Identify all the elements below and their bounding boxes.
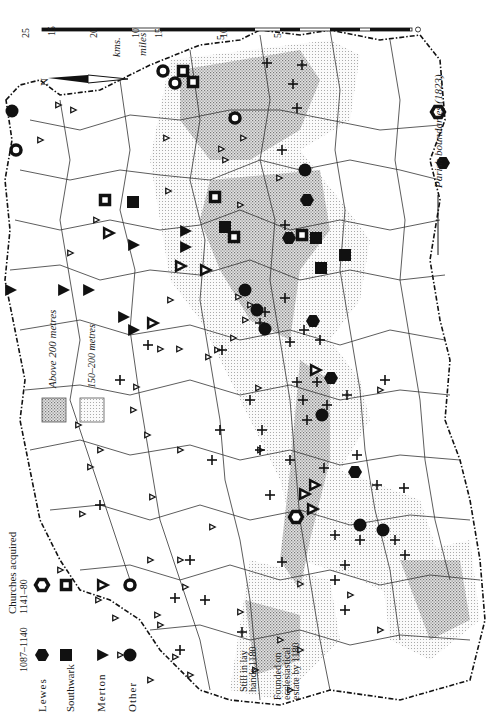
ecclesiastical-estate-triangle-icon (210, 524, 215, 529)
ecclesiastical-estate-triangle-icon (88, 464, 93, 469)
scale-mile-5: 5 (215, 35, 226, 40)
southwark-1141-80-icon (179, 67, 188, 76)
other-1141-80-icon (125, 580, 135, 590)
ecclesiastical-estate-triangle-icon (177, 346, 182, 351)
ecclesiastical-estate-triangle-icon (38, 137, 43, 142)
legend-title: Churches acquired (6, 532, 18, 614)
scale-km-5: 5 (272, 33, 283, 38)
ecclesiastical-estate-triangle-icon (68, 250, 73, 255)
legend-row-other: Other (126, 682, 138, 712)
merton-1141-80-icon (104, 228, 113, 237)
ecclesiastical-estate-triangle-icon (183, 584, 188, 589)
legend-row-southwark: Southwark (64, 664, 76, 712)
scale-unit-kms: kms. (110, 37, 122, 57)
other-1087-1140-icon (239, 284, 252, 297)
ecclesiastical-estate-triangle-icon (58, 567, 63, 572)
other-1087-1140-icon (6, 105, 19, 118)
southwark-1087-1140-icon (127, 196, 139, 208)
legend-swatch-above-200 (42, 398, 66, 422)
ecclesiastical-estate-triangle-icon (206, 354, 211, 359)
legend-relief-above-200: Above 200 metres (46, 310, 58, 388)
ecclesiastical-estate-triangle-icon (148, 557, 153, 562)
merton-1087-1140-icon (58, 284, 70, 296)
southwark-1141-80-icon (62, 581, 71, 590)
other-1087-1140-icon (124, 649, 137, 662)
other-1087-1140-icon (299, 164, 312, 177)
other-1141-80-icon (158, 66, 168, 76)
scale-km-20: 20 (88, 28, 99, 38)
legend-eccl-line3: estate by 1180 (290, 643, 301, 700)
other-1087-1140-icon (377, 524, 390, 537)
ecclesiastical-estate-triangle-icon (80, 511, 85, 516)
lewes-1141-80-icon (290, 511, 303, 522)
merton-1087-1140-icon (83, 284, 95, 296)
scale-km-25: 25 (20, 28, 31, 38)
north-label: N (38, 78, 50, 86)
southwark-1087-1140-icon (339, 249, 351, 261)
legend-period-a: 1087–1140 (18, 627, 29, 672)
other-1087-1140-icon (354, 519, 367, 532)
ecclesiastical-estate-triangle-icon (158, 622, 163, 627)
ecclesiastical-estate-triangle-icon (155, 612, 160, 617)
ecclesiastical-estate-triangle-icon (178, 557, 183, 562)
legend-period-b: 1141–80 (18, 579, 29, 614)
merton-1087-1140-icon (128, 239, 140, 251)
ecclesiastical-estate-triangle-icon (96, 597, 101, 602)
ecclesiastical-estate-triangle-icon (188, 672, 193, 677)
scale-mile-15: 15 (46, 26, 57, 36)
merton-1087-1140-icon (5, 284, 17, 296)
other-1087-1140-icon (251, 304, 264, 317)
ecclesiastical-estate-triangle-icon (113, 615, 118, 620)
ecclesiastical-estate-triangle-icon (98, 447, 103, 452)
southwark-1141-80-icon (298, 231, 307, 240)
ecclesiastical-estate-triangle-icon (168, 297, 173, 302)
ecclesiastical-estate-triangle-icon (71, 107, 76, 112)
ecclesiastical-estate-triangle-icon (378, 627, 383, 632)
merton-1141-80-icon (98, 580, 107, 589)
southwark-1141-80-icon (189, 78, 198, 87)
lewes-1087-1140-icon (35, 649, 49, 661)
scale-mile-10: 10 (130, 28, 141, 38)
ecclesiastical-estate-triangle-icon (178, 447, 183, 452)
other-1087-1140-icon (316, 409, 329, 422)
ecclesiastical-estate-triangle-icon (145, 432, 150, 437)
ecclesiastical-estate-triangle-icon (348, 592, 353, 597)
ecclesiastical-estate-triangle-icon (158, 346, 163, 351)
southwark-1087-1140-icon (219, 221, 231, 233)
southwark-1087-1140-icon (315, 262, 327, 274)
legend-row-lewes: Lewes (36, 678, 48, 712)
lewes-1141-80-icon (36, 579, 49, 590)
ecclesiastical-estate-triangle-icon (378, 387, 383, 392)
ecclesiastical-estate-triangle-icon (148, 677, 153, 682)
legend-relief-150-200: 150–200 metres (86, 324, 97, 388)
southwark-1087-1140-icon (60, 649, 72, 661)
merton-1087-1140-icon (118, 311, 130, 323)
ecclesiastical-estate-triangle-icon (173, 654, 178, 659)
ecclesiastical-estate-triangle-icon (118, 652, 123, 657)
ecclesiastical-estate-triangle-icon (76, 422, 81, 427)
legend-swatch-150-200 (80, 398, 104, 422)
southwark-1141-80-icon (101, 196, 110, 205)
other-1141-80-icon (170, 78, 180, 88)
ecclesiastical-estate-triangle-icon (150, 494, 155, 499)
merton-1141-80-icon (148, 318, 157, 327)
legend-row-merton: Merton (95, 674, 107, 712)
southwark-1141-80-icon (211, 193, 220, 202)
other-1141-80-icon (11, 145, 21, 155)
other-1087-1140-icon (259, 323, 272, 336)
ecclesiastical-estate-triangle-icon (94, 217, 99, 222)
ecclesiastical-estate-triangle-icon (131, 407, 136, 412)
legend-lay-line2: hands 1180 (247, 647, 258, 692)
other-1141-80-icon (230, 113, 240, 123)
north-arrow-icon (48, 75, 128, 83)
merton-1087-1140-icon (97, 649, 109, 661)
legend-parish-boundaries: Parish boundaries (1823) (432, 74, 444, 188)
southwark-1087-1140-icon (310, 232, 322, 244)
map-canvas (0, 0, 499, 715)
scale-km-15: 15 (153, 28, 164, 38)
southwark-1141-80-icon (230, 233, 239, 242)
